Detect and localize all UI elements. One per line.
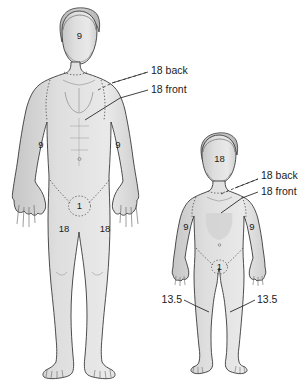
child-left-leg-percent: 13.5 — [162, 293, 183, 305]
adult-right-leg-percent: 18 — [100, 223, 111, 234]
child-right-leg-percent: 13.5 — [257, 293, 278, 305]
child-right-arm-percent: 9 — [249, 221, 254, 232]
child-head-percent: 18 — [214, 153, 225, 164]
child-left-arm-percent: 9 — [183, 221, 188, 232]
adult-body — [12, 62, 138, 379]
adult-callout-front: 18 front — [151, 83, 187, 95]
child-back-leader-line-solid — [235, 179, 258, 188]
child-callout-back: 18 back — [261, 169, 299, 181]
adult-left-arm-percent: 9 — [38, 139, 43, 150]
adult-head-percent: 9 — [77, 30, 82, 41]
child-callout-front: 18 front — [261, 185, 297, 197]
adult-callout-back: 18 back — [151, 64, 189, 76]
child-body — [172, 181, 266, 374]
adult-groin-percent: 1 — [77, 200, 82, 211]
rule-of-nines-diagram: 9 9 9 1 18 18 18 back 18 front — [0, 0, 305, 387]
adult-back-leader-line-solid — [112, 72, 148, 83]
adult-right-arm-percent: 9 — [115, 139, 120, 150]
adult-figure: 9 9 9 1 18 18 18 back 18 front — [12, 8, 188, 379]
child-groin-percent: 1 — [217, 261, 222, 272]
child-figure: 18 9 9 1 18 back 18 front 13.5 13.5 — [162, 133, 299, 374]
adult-left-leg-percent: 18 — [59, 223, 70, 234]
body-diagram-canvas: 9 9 9 1 18 18 18 back 18 front — [0, 0, 305, 387]
